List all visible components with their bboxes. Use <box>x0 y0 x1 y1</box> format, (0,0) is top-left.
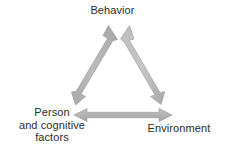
right-diagonal-arrow <box>121 26 165 105</box>
environment-text: Environment <box>148 122 211 134</box>
person-text-line-3: factors <box>2 131 102 144</box>
node-label-environment: Environment <box>133 122 225 135</box>
person-text-line-1: Person <box>2 106 102 119</box>
left-diagonal-arrow <box>72 26 118 106</box>
behavior-text: Behavior <box>90 4 134 16</box>
node-label-person-and-cognitive-factors: Person and cognitive factors <box>2 106 102 144</box>
person-text-line-2: and cognitive <box>2 119 102 132</box>
node-label-behavior: Behavior <box>0 4 225 17</box>
triadic-reciprocal-determinism-diagram: Behavior Person and cognitive factors En… <box>0 0 225 153</box>
